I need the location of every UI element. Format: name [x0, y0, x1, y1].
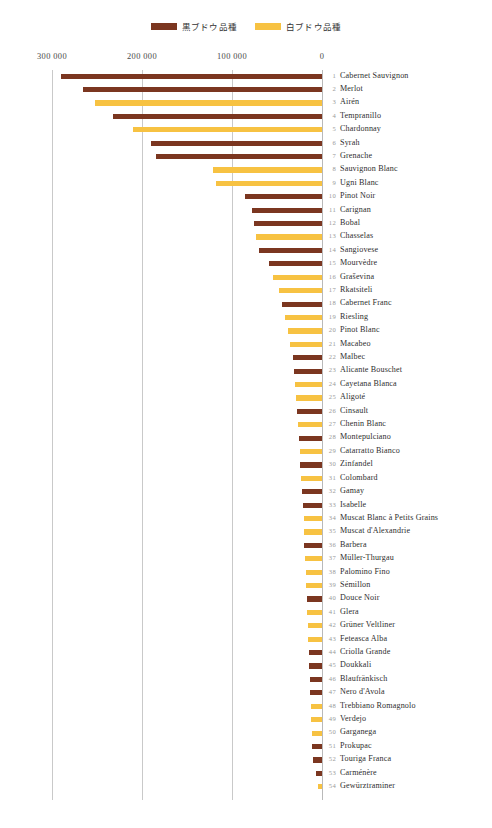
chart-row: 4Tempranillo — [0, 110, 492, 123]
row-category-label: Grüner Veltliner — [340, 620, 395, 629]
chart-row: 19Riesling — [0, 311, 492, 324]
bar-27 — [298, 422, 322, 427]
row-category-label: Touriga Franca — [340, 754, 391, 763]
bar-44 — [309, 650, 323, 655]
row-rank: 36 — [326, 541, 336, 548]
chart-row: 51Prokupac — [0, 740, 492, 753]
row-category-label: Glera — [340, 607, 359, 616]
chart-row: 31Colombard — [0, 472, 492, 485]
row-rank: 15 — [326, 259, 336, 266]
chart-row: 30Zinfandel — [0, 459, 492, 472]
chart-row: 15Mourvèdre — [0, 258, 492, 271]
row-category-label: Macabeo — [340, 339, 371, 348]
row-rank: 16 — [326, 273, 336, 280]
row-category-label: Syrah — [340, 138, 360, 147]
row-rank: 54 — [326, 782, 336, 789]
bar-3 — [95, 100, 322, 105]
row-category-label: Grenache — [340, 151, 372, 160]
x-axis-tick-labels: 300 000200 000100 0000 — [0, 52, 492, 66]
bar-6 — [151, 141, 322, 146]
chart-row: 22Malbec — [0, 352, 492, 365]
row-rank: 49 — [326, 715, 336, 722]
legend-label-dark-grape: 黒ブドウ品種 — [182, 20, 237, 32]
chart-row: 11Carignan — [0, 204, 492, 217]
bar-13 — [256, 234, 322, 239]
chart-legend: 黒ブドウ品種 白ブドウ品種 — [0, 20, 492, 32]
row-label-group: 25Aligoté — [326, 392, 365, 401]
bar-49 — [311, 717, 322, 722]
row-category-label: Ugni Blanc — [340, 178, 379, 187]
bar-10 — [245, 194, 322, 199]
row-label-group: 17Rkatsiteli — [326, 285, 373, 294]
row-category-label: Cabernet Sauvignon — [340, 71, 409, 80]
bar-38 — [306, 570, 322, 575]
chart-row: 36Barbera — [0, 539, 492, 552]
row-rank: 1 — [326, 72, 336, 79]
bar-37 — [305, 556, 322, 561]
bar-30 — [300, 462, 322, 467]
row-rank: 20 — [326, 326, 336, 333]
row-category-label: Müller-Thurgau — [340, 553, 394, 562]
chart-row: 43Feteasca Alba — [0, 633, 492, 646]
x-tick-label-0: 300 000 — [37, 52, 67, 61]
legend-swatch-white-grape — [255, 23, 281, 30]
row-category-label: Prokupac — [340, 741, 372, 750]
row-label-group: 23Alicante Bouschet — [326, 365, 402, 374]
row-category-label: Merlot — [340, 84, 363, 93]
chart-row: 41Glera — [0, 606, 492, 619]
row-category-label: Pinot Noir — [340, 191, 375, 200]
bar-24 — [295, 382, 322, 387]
row-category-label: Cabernet Franc — [340, 298, 392, 307]
row-category-label: Muscat Blanc à Petits Grains — [340, 513, 438, 522]
row-label-group: 11Carignan — [326, 205, 371, 214]
row-rank: 9 — [326, 179, 336, 186]
chart-row: 7Grenache — [0, 150, 492, 163]
row-rank: 45 — [326, 661, 336, 668]
row-label-group: 16Graševina — [326, 272, 374, 281]
row-rank: 44 — [326, 648, 336, 655]
chart-row: 35Muscat d'Alexandrie — [0, 526, 492, 539]
bar-23 — [294, 369, 322, 374]
row-category-label: Trebbiano Romagnolo — [340, 701, 416, 710]
chart-row: 24Cayetana Blanca — [0, 378, 492, 391]
bar-14 — [259, 248, 322, 253]
row-label-group: 42Grüner Veltliner — [326, 620, 395, 629]
chart-row: 14Sangiovese — [0, 244, 492, 257]
bar-22 — [293, 355, 322, 360]
chart-row: 40Douce Noir — [0, 593, 492, 606]
bar-28 — [299, 436, 322, 441]
chart-row: 20Pinot Blanc — [0, 325, 492, 338]
grape-variety-bar-chart: 黒ブドウ品種 白ブドウ品種 300 000200 000100 0000 1Ca… — [0, 0, 492, 828]
bar-12 — [254, 221, 322, 226]
bar-48 — [311, 704, 322, 709]
bar-4 — [113, 114, 322, 119]
row-label-group: 29Catarratto Bianco — [326, 446, 400, 455]
bar-11 — [252, 208, 322, 213]
bar-17 — [279, 288, 322, 293]
row-rank: 50 — [326, 728, 336, 735]
row-label-group: 38Palomino Fino — [326, 567, 390, 576]
row-category-label: Doukkali — [340, 660, 371, 669]
row-rank: 4 — [326, 112, 336, 119]
row-category-label: Airén — [340, 97, 359, 106]
row-label-group: 12Bobal — [326, 218, 360, 227]
row-category-label: Sangiovese — [340, 245, 378, 254]
row-label-group: 30Zinfandel — [326, 459, 373, 468]
chart-row: 46Blaufränkisch — [0, 673, 492, 686]
row-rank: 37 — [326, 554, 336, 561]
chart-row: 6Syrah — [0, 137, 492, 150]
bar-7 — [156, 154, 322, 159]
row-label-group: 31Colombard — [326, 473, 378, 482]
row-label-group: 5Chardonnay — [326, 124, 381, 133]
chart-row: 42Grüner Veltliner — [0, 620, 492, 633]
bar-25 — [296, 395, 322, 400]
row-rank: 30 — [326, 460, 336, 467]
row-rank: 6 — [326, 139, 336, 146]
row-rank: 11 — [326, 206, 336, 213]
row-label-group: 19Riesling — [326, 312, 368, 321]
row-label-group: 53Carménère — [326, 768, 377, 777]
bar-8 — [213, 167, 322, 172]
bar-20 — [288, 328, 322, 333]
chart-row: 21Macabeo — [0, 338, 492, 351]
bar-21 — [290, 342, 322, 347]
